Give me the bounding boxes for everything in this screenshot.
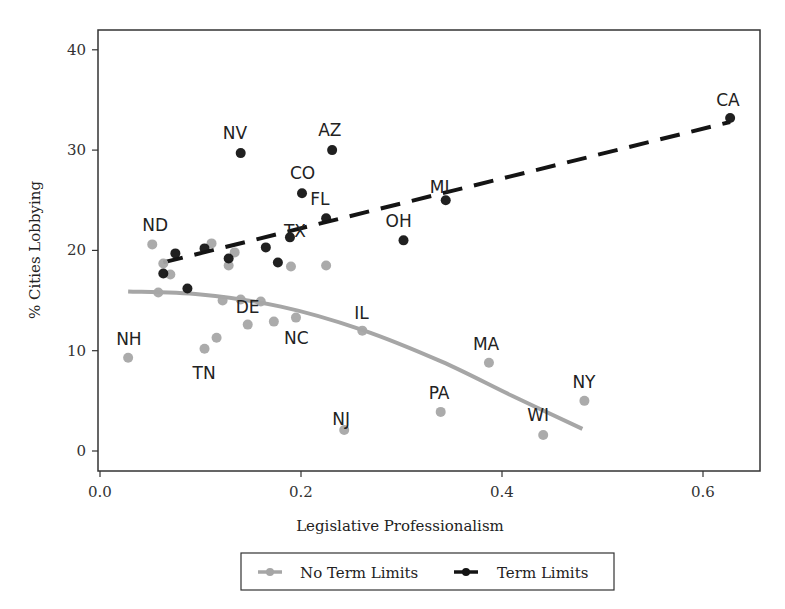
y-axis: 010203040 (67, 41, 98, 460)
data-point (182, 284, 192, 294)
legend: No Term Limits Term Limits (241, 553, 614, 590)
x-tick-label: 0.6 (691, 483, 715, 501)
point-label: CA (716, 90, 740, 110)
data-point (243, 320, 253, 330)
data-point (200, 344, 210, 354)
data-point (224, 253, 234, 263)
point-label: MA (473, 334, 500, 354)
legend-label: No Term Limits (300, 564, 418, 582)
point-label: MI (430, 177, 450, 197)
data-point (261, 242, 271, 252)
point-label: ND (142, 215, 168, 235)
data-point (484, 358, 494, 368)
legend-marker-icon (462, 568, 470, 576)
data-point (327, 145, 337, 155)
scatter-chart: 010203040 0.00.20.40.6 NDDENCTNNHILMAPAN… (0, 0, 785, 609)
x-tick-label: 0.0 (88, 483, 112, 501)
point-label: DE (236, 297, 260, 317)
point-label: NH (116, 329, 142, 349)
point-label: IL (354, 303, 369, 323)
point-label: TX (283, 221, 306, 241)
point-label: CO (290, 163, 315, 183)
plot-area (98, 30, 760, 471)
data-point (236, 148, 246, 158)
point-label: AZ (318, 120, 341, 140)
legend-marker-icon (266, 568, 274, 576)
data-point (158, 258, 168, 268)
data-point (725, 113, 735, 123)
y-tick-label: 10 (67, 342, 86, 360)
point-label: TN (192, 363, 216, 383)
data-point (269, 317, 279, 327)
legend-label: Term Limits (497, 564, 588, 582)
y-axis-title: % Cities Lobbying (26, 181, 44, 320)
point-label: NC (284, 328, 309, 348)
point-label: NJ (332, 409, 350, 429)
data-point (200, 243, 210, 253)
x-tick-label: 0.4 (490, 483, 514, 501)
y-tick-label: 20 (67, 241, 86, 259)
data-point (273, 257, 283, 267)
data-point (147, 239, 157, 249)
point-label: NY (572, 372, 596, 392)
data-point (357, 326, 367, 336)
data-point (218, 296, 228, 306)
data-point (538, 430, 548, 440)
point-label: WI (527, 405, 549, 425)
data-point (436, 407, 446, 417)
data-point (297, 188, 307, 198)
point-label: OH (386, 211, 412, 231)
data-point (286, 261, 296, 271)
data-point (321, 213, 331, 223)
y-tick-label: 0 (76, 442, 86, 460)
data-point (123, 353, 133, 363)
data-point (579, 396, 589, 406)
y-tick-label: 30 (67, 141, 86, 159)
x-axis-title: Legislative Professionalism (296, 517, 504, 535)
point-label: NV (223, 123, 248, 143)
data-point (291, 313, 301, 323)
x-axis: 0.00.20.40.6 (88, 471, 715, 501)
data-point (170, 248, 180, 258)
data-point (321, 260, 331, 270)
point-label: PA (429, 383, 450, 403)
data-point (399, 235, 409, 245)
x-tick-label: 0.2 (289, 483, 313, 501)
point-label: FL (310, 189, 330, 209)
data-point (158, 268, 168, 278)
y-tick-label: 40 (67, 41, 86, 59)
data-point (212, 333, 222, 343)
data-point (153, 288, 163, 298)
